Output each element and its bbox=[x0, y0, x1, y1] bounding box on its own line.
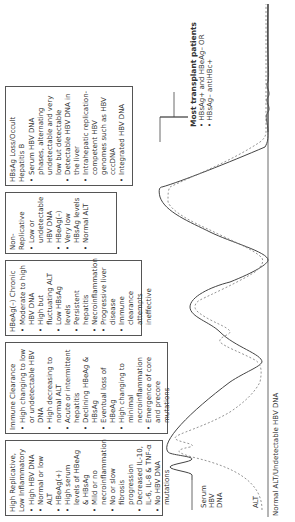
phase-title: HBsAg Loss/Occult Hepatitis B bbox=[9, 90, 27, 182]
transplant-bullet-text: HBsAg– antiHBc+ bbox=[206, 59, 214, 121]
phase-box-occult: HBsAg Loss/Occult Hepatitis B Serum HBV … bbox=[5, 86, 133, 186]
phase-bullet: Acute or intermittent hepatitis bbox=[64, 346, 82, 430]
phase-bullet: Declining HBeAg & HBsAg bbox=[82, 346, 100, 430]
phase-box-non-replicative: Non-Replicative Low or undetectable HBV … bbox=[5, 192, 117, 254]
transplant-bullet: • HBsAg+ and HBeAg– OR bbox=[198, 35, 206, 128]
phase-title: Immune Clearance bbox=[9, 346, 18, 430]
phase-bullet: Normal ALT bbox=[82, 196, 91, 250]
phase-bullet: Necroinflammation bbox=[91, 264, 100, 332]
phase-box-immune-clearance: Immune Clearance High changing to low or… bbox=[5, 342, 168, 434]
phase-title: Non-Replicative bbox=[9, 196, 27, 250]
phase-bullet: Decreased IL-10, IL-6, IL-8 & TNF-α bbox=[136, 444, 154, 512]
phase-bullet: High decreasing to normal ALT bbox=[46, 346, 64, 430]
transplant-title: Most transplant patients bbox=[189, 22, 198, 127]
phase-bullet: Eventual loss of HBeAg bbox=[100, 346, 118, 430]
phase-bullet: Intrahepatic replication-competent HBV g… bbox=[82, 90, 118, 182]
phase-bullet: HBeAg(–) bbox=[55, 196, 64, 250]
phase-bullet: No or slow fibrosis progression bbox=[109, 444, 136, 512]
phase-title: High Replicative, Low Inflammatory bbox=[9, 444, 27, 512]
phase-bullet: Persistent hepatitis bbox=[73, 264, 91, 332]
phase-bullet: Immune clearance attempts ineffective bbox=[118, 264, 154, 332]
phase-bullet: High changing to low or undetectable HBV… bbox=[19, 346, 46, 430]
phase-bullet: Low HBsAg levels bbox=[55, 264, 73, 332]
phase-bullet: Moderate to high HBV DNA bbox=[19, 264, 37, 332]
transplant-note: Most transplant patients • HBsAg+ and HB… bbox=[190, 2, 214, 127]
phase-title: HBeAg(–) Chronic bbox=[9, 264, 18, 332]
hbv-phases-diagram: High Replicative, Low Inflammatory High … bbox=[0, 0, 295, 522]
transplant-bullet-text: HBsAg+ and HBeAg– OR bbox=[198, 35, 206, 121]
phase-bullet: Mild or no necroinflammation bbox=[91, 444, 109, 512]
phase-bullet: Serum HBV DNA phases, alternating undete… bbox=[28, 90, 64, 182]
phase-bullet: No HBV DNA mutations bbox=[154, 444, 172, 512]
phase-box-immune-tolerant: High Replicative, Low Inflammatory High … bbox=[5, 440, 163, 516]
phase-bullet: High changing to minimal necroinflammati… bbox=[118, 346, 145, 430]
phase-bullet: Integrated HBV DNA bbox=[118, 90, 127, 182]
phase-bullet: HBeAg(+) bbox=[55, 444, 64, 512]
phase-bullet: Progressive liver disease bbox=[100, 264, 118, 332]
phase-bullet: Emergence of core and precore mutations bbox=[145, 346, 172, 430]
phase-bullet: High HBV DNA bbox=[28, 444, 37, 512]
phase-box-hbeag-negative: HBeAg(–) Chronic Moderate to high HBV DN… bbox=[5, 260, 142, 336]
phase-bullet: Low or undetectable HBV DNA bbox=[28, 196, 55, 250]
phase-bullet: Very low HBsAg levels bbox=[64, 196, 82, 250]
phase-bullet: Detectable HBV DNA in the liver bbox=[64, 90, 82, 182]
alt-label: ALT bbox=[252, 496, 260, 508]
phase-bullet: High serum levels of HBeAg & HBsAg bbox=[64, 444, 91, 512]
phase-bullet: Normal or low ALT bbox=[37, 444, 55, 512]
phase-bullet: High but fluctuating ALT bbox=[37, 264, 55, 332]
baseline-label: Normal ALT/Undetectable HBV DNA bbox=[272, 393, 280, 516]
transplant-bullet: • HBsAg– antiHBc+ bbox=[206, 59, 214, 127]
serum-hbv-dna-label: Serum HBV DNA bbox=[200, 478, 224, 508]
